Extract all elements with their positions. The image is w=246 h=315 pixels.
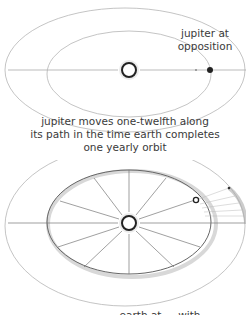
jupiter-icon (228, 187, 231, 190)
opposition-label: jupiter at opposition (172, 27, 238, 53)
bottom-caption-partial: earth at ... with (100, 309, 220, 315)
top-caption: jupiter moves one-twelfth along its path… (30, 115, 220, 154)
earth-icon (193, 197, 198, 202)
bottom-panel: earth at ... with (0, 160, 246, 315)
bottom-orbit-diagram (0, 160, 246, 315)
jupiter-arc (229, 188, 246, 222)
jupiter-icon (207, 67, 213, 73)
sun-icon (119, 213, 139, 233)
earth-icon (195, 69, 197, 71)
top-panel: jupiter at opposition jupiter moves one-… (0, 0, 246, 160)
sun-icon (119, 60, 139, 80)
jupiter-sweep (196, 188, 244, 216)
